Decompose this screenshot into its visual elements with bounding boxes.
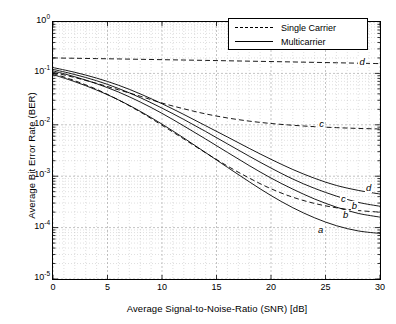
- legend-row-single-carrier: Single Carrier: [229, 21, 369, 35]
- y-axis-tick-labels: 10010-110-210-310-410-5: [8, 0, 50, 324]
- curve-label-b-2: b: [351, 201, 358, 211]
- legend-label-multicarrier: Multicarrier: [281, 37, 326, 47]
- legend-label-single-carrier: Single Carrier: [281, 23, 336, 33]
- curve-c-single-carrier: [53, 72, 380, 129]
- legend: Single Carrier Multicarrier: [228, 18, 368, 50]
- y-tick-label-3: 10-3: [16, 170, 50, 179]
- x-tick-label-3: 15: [202, 283, 232, 292]
- x-tick-label-1: 5: [93, 283, 123, 292]
- x-tick-label-2: 10: [147, 283, 177, 292]
- y-tick-label-1: 10-1: [16, 67, 50, 76]
- curve-label-d-0: d: [358, 57, 365, 67]
- curve-label-c-4: c: [340, 194, 347, 204]
- y-tick-label-5: 10-5: [16, 273, 50, 282]
- y-tick-label-2: 10-2: [16, 119, 50, 128]
- y-tick-label-0: 100: [16, 16, 50, 25]
- curve-label-d-3: d: [365, 183, 372, 193]
- legend-swatch-dashed: [235, 23, 273, 33]
- x-tick-label-6: 30: [365, 283, 395, 292]
- legend-row-multicarrier: Multicarrier: [229, 35, 369, 49]
- x-tick-label-4: 20: [256, 283, 286, 292]
- x-tick-label-5: 25: [311, 283, 341, 292]
- legend-swatch-solid: [235, 37, 273, 47]
- y-tick-label-4: 10-4: [16, 222, 50, 231]
- x-tick-label-0: 0: [38, 283, 68, 292]
- curve-label-b-5: b: [342, 210, 349, 220]
- curve-label-c-1: c: [318, 119, 325, 129]
- plot-canvas: [53, 22, 380, 279]
- figure-ber-vs-snr: Average Bit Error Rate (BER) 10010-110-2…: [0, 0, 396, 324]
- x-axis-label: Average Signal-to-Noise-Ratio (SNR) [dB]: [52, 303, 382, 314]
- curve-c-multicarrier: [53, 69, 380, 206]
- plot-area: [52, 21, 381, 280]
- curve-label-a-6: a: [317, 225, 324, 235]
